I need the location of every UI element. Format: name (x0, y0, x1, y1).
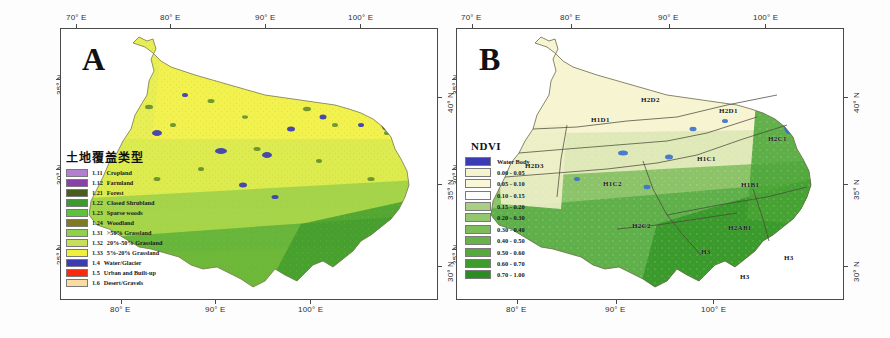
legend-item-label: Cropland (107, 169, 132, 176)
axis-right-tick-label: 30° N (852, 261, 861, 282)
axis-top-tick-label: 80° E (560, 13, 581, 22)
legend-item-label: 0.50 - 0.60 (497, 249, 525, 256)
axis-tick (215, 300, 216, 304)
legend-item: 1.23Sparse woods (66, 208, 162, 217)
legend-item: 1.24Woodland (66, 218, 162, 227)
axis-tick (121, 300, 122, 304)
legend-item-code: 1.33 (92, 249, 103, 256)
legend-item-code: 1.31 (92, 229, 103, 236)
axis-top-tick-label: 70° E (66, 13, 87, 22)
legend-item-label: 5%-20% Grassland (107, 249, 159, 256)
legend-item-code: 1.12 (92, 179, 103, 186)
region-label: H2C1 (768, 135, 787, 143)
legend-item-label: Forest (107, 189, 124, 196)
panel-letter-a: A (82, 43, 105, 75)
legend-item: 1.21Forest (66, 188, 162, 197)
axis-top-tick-label: 90° E (658, 13, 679, 22)
legend-title-land-cover: 土地覆盖类型 (66, 148, 162, 165)
legend-item: Water Body (465, 156, 530, 166)
legend-swatch (66, 239, 88, 247)
axis-tick (438, 266, 442, 267)
legend-item: 1.6Desert/Gravels (66, 278, 162, 287)
legend-swatch (465, 157, 491, 166)
legend-land-cover: 土地覆盖类型 1.11Cropland1.12Farmland1.21Fores… (66, 148, 162, 288)
legend-item-code: 1.32 (92, 239, 103, 246)
region-label: H2D1 (719, 107, 738, 115)
legend-items-land-cover: 1.11Cropland1.12Farmland1.21Forest1.22Cl… (66, 168, 162, 287)
panel-a: 70° E 80° E 90° E 100° E 80° E 90° E 100… (0, 0, 450, 338)
legend-swatch (66, 219, 88, 227)
legend-swatch (465, 225, 491, 234)
legend-item-label: 0.15 - 0.20 (497, 203, 525, 210)
legend-item: 1.22Closed Shrubland (66, 198, 162, 207)
legend-item-code: 1.5 (92, 269, 100, 276)
legend-item-label: >50% Grassland (107, 229, 152, 236)
legend-swatch (465, 259, 491, 268)
panel-letter-b: B (479, 43, 500, 75)
axis-tick (844, 97, 848, 98)
legend-swatch (66, 279, 88, 287)
legend-swatch (465, 168, 491, 177)
legend-item-code: 1.22 (92, 199, 103, 206)
legend-item: 1.4Water/Glacier (66, 258, 162, 267)
region-label: H2AB1 (728, 224, 752, 232)
region-label: H1C1 (697, 155, 716, 163)
legend-item-label: Woodland (107, 219, 134, 226)
legend-item-label: Closed Shrubland (107, 199, 155, 206)
legend-title-ndvi: NDVI (471, 140, 530, 152)
legend-items-ndvi: Water Body0.00 - 0.050.05 - 0.100.10 - 0… (465, 156, 530, 280)
legend-item: 0.50 - 0.60 (465, 247, 530, 257)
region-label: H3 (701, 248, 711, 256)
legend-item-code: 1.24 (92, 219, 103, 226)
legend-item-label: 0.10 - 0.15 (497, 192, 525, 199)
legend-item-code: 1.23 (92, 209, 103, 216)
legend-swatch (465, 179, 491, 188)
axis-right-tick-label: 35° N (852, 179, 861, 200)
legend-swatch (465, 213, 491, 222)
legend-item: 1.3220%-50% Grassland (66, 238, 162, 247)
legend-ndvi: NDVI Water Body0.00 - 0.050.05 - 0.100.1… (465, 140, 530, 281)
legend-item: 0.05 - 0.10 (465, 179, 530, 189)
region-label: H1B1 (741, 181, 759, 189)
axis-bottom-tick-label: 100° E (701, 305, 726, 314)
legend-swatch (66, 169, 88, 177)
figure-container: 70° E 80° E 90° E 100° E 80° E 90° E 100… (0, 0, 890, 338)
urban-areas (397, 126, 408, 143)
legend-swatch (465, 202, 491, 211)
legend-swatch (465, 270, 491, 279)
legend-item: 0.60 - 0.70 (465, 259, 530, 269)
legend-item: 0.70 - 1.00 (465, 270, 530, 280)
axis-bottom-tick-label: 100° E (298, 305, 323, 314)
legend-item: 0.10 - 0.15 (465, 190, 530, 200)
legend-item-label: 0.30 - 0.40 (497, 226, 525, 233)
legend-item: 1.31>50% Grassland (66, 228, 162, 237)
legend-item-label: Urban and Built-up (104, 269, 156, 276)
axis-right-tick-label: 40° N (852, 92, 861, 113)
legend-swatch (465, 248, 491, 257)
legend-item-code: 1.21 (92, 189, 103, 196)
legend-item: 1.11Cropland (66, 168, 162, 177)
legend-item-label: 0.20 - 0.30 (497, 214, 525, 221)
region-label: H3 (784, 254, 794, 262)
region-label: H1C2 (603, 180, 622, 188)
legend-item-label: 0.40 - 0.50 (497, 237, 525, 244)
legend-item-label: 20%-50% Grassland (107, 239, 163, 246)
axis-bottom-tick-label: 90° E (605, 305, 626, 314)
axis-top-tick-label: 100° E (753, 13, 778, 22)
region-label: H1D1 (591, 116, 610, 124)
axis-bottom-tick-label: 80° E (506, 305, 527, 314)
legend-item-label: 0.00 - 0.05 (497, 169, 525, 176)
legend-item: 1.335%-20% Grassland (66, 248, 162, 257)
panel-b: 70° E 80° E 90° E 100° E 80° E 90° E 100… (443, 0, 890, 338)
legend-item: 0.40 - 0.50 (465, 236, 530, 246)
legend-item-code: 1.11 (92, 169, 103, 176)
legend-item-label: 0.05 - 0.10 (497, 180, 525, 187)
axis-tick (438, 97, 442, 98)
axis-tick (844, 266, 848, 267)
legend-swatch (66, 269, 88, 277)
axis-tick (438, 184, 442, 185)
legend-swatch (66, 189, 88, 197)
legend-item: 0.00 - 0.05 (465, 167, 530, 177)
axis-tick (713, 300, 714, 304)
legend-item-label: 0.60 - 0.70 (497, 260, 525, 267)
